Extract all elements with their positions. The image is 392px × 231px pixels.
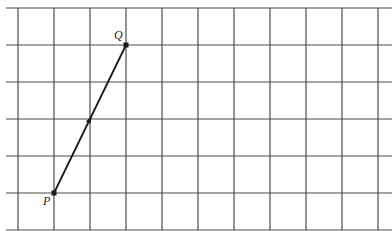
square-grid <box>6 8 392 230</box>
points: PQ <box>42 28 129 208</box>
vector-grid-diagram: PQ <box>0 0 392 231</box>
point-label-p: P <box>42 194 51 208</box>
point-label-q: Q <box>114 28 123 42</box>
point-marker-p <box>52 191 57 196</box>
point-marker-q <box>124 43 129 48</box>
